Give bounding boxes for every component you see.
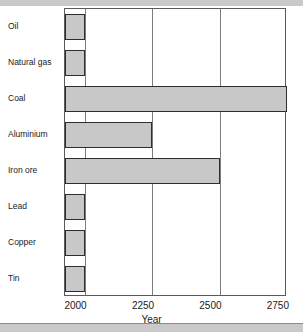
- bar: [65, 86, 287, 112]
- category-label: Natural gas: [8, 58, 51, 67]
- category-label: Oil: [8, 22, 18, 31]
- x-tick-label: 2000: [64, 301, 86, 311]
- bar: [65, 14, 85, 40]
- bar: [65, 158, 220, 184]
- gridline-2250: [152, 9, 153, 295]
- category-label: Iron ore: [8, 166, 37, 175]
- chart-figure: OilNatural gasCoalAluminiumIron oreLeadC…: [0, 0, 303, 332]
- x-tick-label: 2750: [267, 301, 289, 311]
- category-label: Copper: [8, 238, 36, 247]
- plot-area: [64, 8, 286, 296]
- category-label: Coal: [8, 94, 25, 103]
- bar: [65, 266, 85, 292]
- category-label: Lead: [8, 202, 27, 211]
- bar: [65, 230, 85, 256]
- page-edge-strip-top: [0, 0, 303, 6]
- page-edge-strip-bottom: [0, 324, 303, 332]
- x-tick-label: 2250: [132, 301, 154, 311]
- bar: [65, 122, 152, 148]
- bar: [65, 50, 85, 76]
- gridline-2000: [85, 9, 86, 295]
- category-label: Aluminium: [8, 130, 48, 139]
- gridline-2500: [220, 9, 221, 295]
- x-tick-label: 2500: [199, 301, 221, 311]
- bar: [65, 194, 85, 220]
- category-label: Tin: [8, 274, 20, 283]
